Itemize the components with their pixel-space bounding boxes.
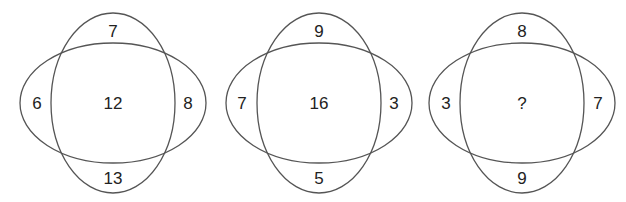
diagram-1: 7 6 12 8 13 (20, 13, 206, 193)
right-value: 8 (183, 94, 192, 113)
puzzle-canvas: 7 6 12 8 13 9 7 16 3 5 8 3 ? 7 9 (0, 0, 626, 202)
top-value: 8 (517, 22, 526, 41)
bottom-value: 9 (517, 169, 526, 188)
left-value: 7 (237, 94, 246, 113)
left-value: 3 (441, 94, 450, 113)
right-value: 3 (389, 94, 398, 113)
top-value: 9 (314, 22, 323, 41)
bottom-value: 5 (314, 169, 323, 188)
diagram-3: 8 3 ? 7 9 (429, 13, 615, 193)
diagram-2: 9 7 16 3 5 (226, 13, 412, 193)
top-value: 7 (108, 22, 117, 41)
left-value: 6 (32, 94, 41, 113)
right-value: 7 (593, 94, 602, 113)
center-unknown-value: ? (517, 94, 526, 113)
center-value: 16 (310, 94, 329, 113)
bottom-value: 13 (104, 169, 123, 188)
center-value: 12 (104, 94, 123, 113)
